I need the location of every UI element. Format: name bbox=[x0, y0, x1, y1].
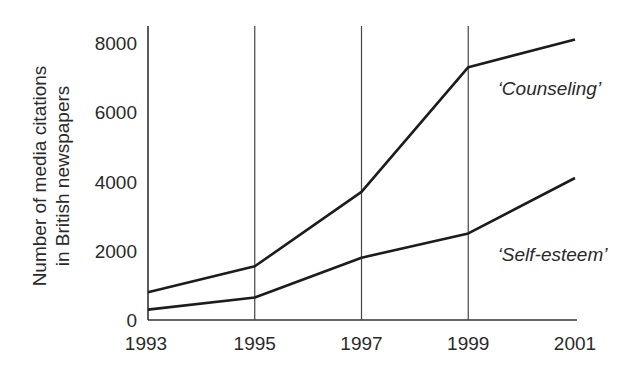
series-label-self-esteem: ‘Self-esteem’ bbox=[498, 244, 609, 265]
y-tick-label: 2000 bbox=[95, 241, 137, 262]
y-axis-title-line-1: Number of media citations bbox=[29, 66, 50, 287]
x-axis-tick-labels: 1993 1995 1997 1999 2001 bbox=[125, 333, 596, 354]
x-tick-label: 2001 bbox=[554, 333, 596, 354]
y-axis-tick-labels: 0 2000 4000 6000 8000 bbox=[95, 33, 137, 331]
y-tick-label: 6000 bbox=[95, 102, 137, 123]
y-tick-label: 0 bbox=[126, 310, 137, 331]
x-tick-label: 1997 bbox=[340, 333, 382, 354]
x-tick-label: 1993 bbox=[125, 333, 167, 354]
y-tick-label: 4000 bbox=[95, 172, 137, 193]
y-tick-label: 8000 bbox=[95, 33, 137, 54]
x-tick-label: 1999 bbox=[447, 333, 489, 354]
line-chart: Number of media citations in British new… bbox=[0, 0, 625, 370]
y-axis-title: Number of media citations in British new… bbox=[29, 66, 73, 287]
y-axis-title-line-2: in British newspapers bbox=[52, 86, 73, 267]
x-tick-label: 1995 bbox=[234, 333, 276, 354]
series-label-counseling: ‘Counseling’ bbox=[498, 78, 602, 99]
vertical-gridlines bbox=[255, 26, 469, 320]
